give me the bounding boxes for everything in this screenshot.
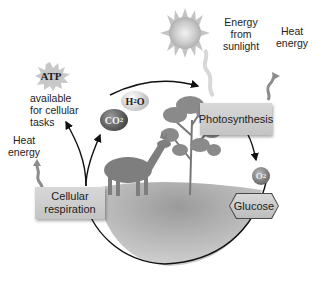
- water-molecule: H2O: [121, 91, 149, 111]
- photosynthesis-box: Photosynthesis: [200, 103, 272, 135]
- diagram-canvas: [0, 0, 323, 287]
- heat-wave-right-icon: [268, 76, 275, 100]
- energy-from-sunlight-label: Energy from sunlight: [218, 16, 264, 52]
- heat-energy-right-label: Heat energy: [276, 25, 308, 49]
- sunlight-wave-icon: [205, 50, 213, 96]
- cellular-respiration-box: Cellular respiration: [35, 187, 105, 219]
- oxygen-molecule: O2: [252, 167, 270, 185]
- glucose-hexagon: Glucose: [229, 193, 279, 219]
- atp-caption: available for cellular tasks: [30, 92, 78, 128]
- atp-badge: ATP: [39, 70, 63, 82]
- glucose-label: Glucose: [230, 194, 278, 218]
- carbon-dioxide-molecule: CO2: [100, 109, 128, 131]
- heat-energy-left-label: Heat energy: [8, 134, 40, 158]
- sun-icon: [160, 8, 210, 58]
